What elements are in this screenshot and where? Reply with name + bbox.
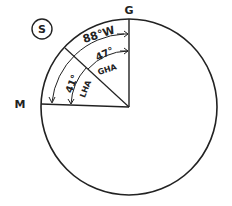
label-longitude: 88°W [81, 23, 116, 46]
hour-angle-diagram: S G M 88°W 47° GHA 41° LHA [0, 0, 232, 206]
label-gha: GHA [97, 62, 119, 77]
label-gha-value: 47° [94, 45, 116, 63]
label-lha-value: 41° [63, 73, 80, 95]
label-meridian: M [15, 98, 26, 111]
label-lha: LHA [78, 78, 93, 99]
hemisphere-marker: S [38, 23, 46, 36]
label-greenwich: G [124, 4, 133, 17]
radius-m [41, 104, 129, 107]
